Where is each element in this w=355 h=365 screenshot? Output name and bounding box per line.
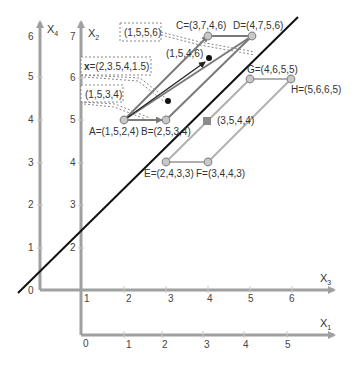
x3-tick-6: 6 xyxy=(289,293,295,304)
x3-axis: X3 1 2 3 4 5 6 xyxy=(40,272,334,304)
label-mid: (3,5,4,4) xyxy=(217,115,254,126)
point-a xyxy=(120,116,128,124)
separator-line xyxy=(18,17,298,293)
point-h xyxy=(287,75,295,83)
point-e xyxy=(162,158,170,166)
x2-tick-3: 3 xyxy=(70,199,76,210)
label-g: G=(4,6,5,5) xyxy=(247,64,298,75)
x3-tick-4: 4 xyxy=(207,293,213,304)
svg-text:(1,5,5,6): (1,5,5,6) xyxy=(124,27,161,38)
x4-tick-1: 1 xyxy=(28,242,34,253)
label-arrow-tip: (1,5,4,6) xyxy=(166,48,203,59)
x2-axis-label: X2 xyxy=(88,27,99,41)
x4-axis-label: X4 xyxy=(47,23,58,37)
x1-tick-3: 3 xyxy=(204,339,210,350)
point-g xyxy=(246,75,254,83)
point-b xyxy=(162,116,170,124)
label-b: B=(2,5,3,4) xyxy=(141,126,191,137)
label-d: D=(4,7,5,6) xyxy=(233,20,283,31)
x1-axis: X1 0 1 2 3 4 5 xyxy=(81,317,334,350)
x4-tick-5: 5 xyxy=(28,71,34,82)
x1-tick-4: 4 xyxy=(243,339,249,350)
x4-tick-6: 6 xyxy=(28,31,34,42)
x4-axis: X4 0 1 2 3 4 5 6 xyxy=(28,22,58,296)
x2-tick-4: 4 xyxy=(70,157,76,168)
x3-axis-label: X3 xyxy=(320,272,331,286)
x1-tick-5: 5 xyxy=(285,339,291,350)
point-x-dot xyxy=(165,98,171,104)
x1-axis-label: X1 xyxy=(320,317,331,331)
x3-tick-3: 3 xyxy=(168,293,174,304)
label-f: F=(3,4,4,3) xyxy=(196,168,245,179)
x2-tick-2: 2 xyxy=(70,242,76,253)
x1-tick-2: 2 xyxy=(162,339,168,350)
label-c: C=(3,7,4,6) xyxy=(176,20,226,31)
x3-tick-5: 5 xyxy=(248,293,254,304)
x1-tick-1: 1 xyxy=(126,339,132,350)
x2-tick-5: 5 xyxy=(70,114,76,125)
point-c xyxy=(204,32,212,40)
label-e: E=(2,4,3,3) xyxy=(144,168,194,179)
x2-tick-6: 6 xyxy=(70,72,76,83)
callout-1534: (1,5,3,4) xyxy=(81,85,150,120)
point-f xyxy=(204,158,212,166)
point-1546-dot xyxy=(206,55,212,61)
point-mid-marker xyxy=(203,117,211,125)
svg-text:x=(2,3.5,4,1.5): x=(2,3.5,4,1.5) xyxy=(84,61,149,72)
label-a: A=(1,5,2,4) xyxy=(89,126,139,137)
x3-tick-2: 2 xyxy=(126,293,132,304)
x2-tick-7: 7 xyxy=(70,31,76,42)
x1-tick-0: 0 xyxy=(83,338,89,349)
svg-text:(1,5,3,4): (1,5,3,4) xyxy=(85,89,122,100)
x3-tick-1: 1 xyxy=(84,293,90,304)
parallel-coordinates-diagram: X4 0 1 2 3 4 5 6 X2 2 3 4 5 6 7 X3 1 2 xyxy=(0,0,355,365)
x4-tick-4: 4 xyxy=(28,114,34,125)
x4-tick-0: 0 xyxy=(28,285,34,296)
x4-tick-2: 2 xyxy=(28,199,34,210)
point-d xyxy=(248,32,256,40)
x4-tick-3: 3 xyxy=(28,157,34,168)
label-h: H=(5,6,6,5) xyxy=(291,84,341,95)
